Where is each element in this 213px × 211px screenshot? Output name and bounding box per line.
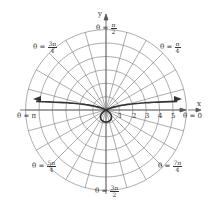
grid-spoke	[106, 110, 176, 150]
angle-label-0: θ = 0	[183, 113, 202, 120]
r-tick-3: 3	[145, 113, 149, 120]
x-axis-label: x	[197, 101, 201, 108]
angle-label-5pi-over-4: θ = 5π4	[32, 160, 56, 173]
angle-label-7pi-over-4: θ = 7π4	[158, 160, 182, 173]
y-axis-label: y	[98, 11, 102, 18]
angle-label-pi: θ = π	[17, 113, 36, 120]
grid-spoke	[106, 40, 146, 110]
grid-spoke	[36, 70, 106, 110]
grid-spoke	[36, 110, 106, 150]
angle-label-pi-over-2: θ = π2	[96, 22, 117, 35]
curve-right-arrow-icon	[174, 96, 182, 102]
grid-spoke	[66, 110, 106, 180]
grid-spoke	[49, 110, 106, 167]
grid-spoke	[66, 40, 106, 110]
r-tick-2: 2	[132, 113, 136, 120]
grid-spoke	[49, 53, 106, 110]
r-tick-4: 4	[158, 113, 162, 120]
r-tick-5: 5	[171, 113, 175, 120]
angle-label-3pi-over-2: θ = 3π2	[95, 185, 119, 198]
y-axis-arrow-icon	[104, 14, 108, 20]
grid-spoke	[106, 110, 146, 180]
grid-spoke	[106, 70, 176, 110]
r-tick-1: 1	[118, 113, 122, 120]
angle-label-pi-over-4: θ = π4	[160, 41, 181, 54]
angle-label-3pi-over-4: θ = 3π4	[33, 41, 57, 54]
